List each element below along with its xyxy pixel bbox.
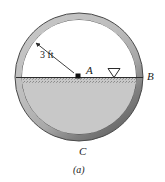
point-label-c: C <box>79 146 86 157</box>
air-space-region <box>15 12 145 77</box>
point-label-a: A <box>86 65 93 76</box>
dimension-label-3ft: 3 ft <box>40 50 54 60</box>
point-marker-dot <box>76 74 81 79</box>
point-label-b: B <box>147 71 154 82</box>
figure-caption: (a) <box>73 165 85 175</box>
tank-cross-section-figure: 3 ft A B C (a) <box>0 0 165 182</box>
